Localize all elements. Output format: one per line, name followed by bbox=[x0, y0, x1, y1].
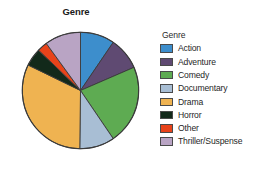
legend-item[interactable]: Documentary bbox=[160, 82, 265, 95]
legend-swatch-icon bbox=[160, 98, 173, 107]
chart-legend: Genre ActionAdventureComedyDocumentaryDr… bbox=[160, 30, 265, 148]
legend-item-label: Adventure bbox=[178, 58, 216, 67]
legend-swatch-icon bbox=[160, 44, 173, 53]
pie-chart-figure: Genre Genre ActionAdventureComedyDocumen… bbox=[0, 0, 265, 169]
legend-item-list: ActionAdventureComedyDocumentaryDramaHor… bbox=[160, 42, 265, 148]
legend-item[interactable]: Other bbox=[160, 122, 265, 135]
legend-item-label: Thriller/Suspense bbox=[178, 137, 242, 146]
legend-item-label: Action bbox=[178, 44, 201, 53]
legend-item[interactable]: Comedy bbox=[160, 69, 265, 82]
page-title: Genre bbox=[0, 6, 152, 17]
legend-swatch-icon bbox=[160, 137, 173, 146]
legend-swatch-icon bbox=[160, 111, 173, 120]
legend-swatch-icon bbox=[160, 71, 173, 80]
legend-swatch-icon bbox=[160, 124, 173, 133]
legend-item[interactable]: Adventure bbox=[160, 55, 265, 68]
legend-item[interactable]: Action bbox=[160, 42, 265, 55]
pie-chart-plot-area bbox=[21, 31, 140, 150]
legend-item-label: Documentary bbox=[178, 84, 227, 93]
legend-item-label: Other bbox=[178, 124, 199, 133]
legend-swatch-icon bbox=[160, 84, 173, 93]
pie-slice-group bbox=[22, 32, 138, 148]
legend-swatch-icon bbox=[160, 58, 173, 67]
legend-item[interactable]: Drama bbox=[160, 95, 265, 108]
legend-item[interactable]: Thriller/Suspense bbox=[160, 135, 265, 148]
legend-item[interactable]: Horror bbox=[160, 108, 265, 121]
pie-svg bbox=[21, 31, 140, 150]
legend-item-label: Horror bbox=[178, 111, 201, 120]
legend-item-label: Drama bbox=[178, 98, 203, 107]
legend-item-label: Comedy bbox=[178, 71, 209, 80]
legend-title: Genre bbox=[162, 30, 265, 40]
